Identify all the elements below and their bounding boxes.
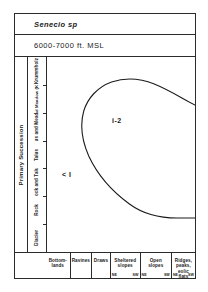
x-axis-cell-draws: Draws	[92, 253, 111, 278]
y-axis-tick-label: Rock and Talus	[34, 168, 39, 196]
x-axis-cell-ridges-peaks: Ridges, peaks, eolic flats NE SW	[172, 253, 195, 278]
contour-path-i2	[82, 79, 195, 218]
x-axis-cell-open-slopes: Open slopes NE SW	[141, 253, 172, 278]
y-axis-tick-talus: Talus	[27, 141, 46, 169]
x-axis-cell-label: Open slopes	[141, 258, 171, 269]
x-axis-cell-label: Ravines	[71, 258, 92, 263]
x-axis-cell-label: Draws	[92, 258, 110, 263]
y-axis-tick-glacier: Glacier	[27, 224, 46, 252]
y-axis-tick-rock-talus: Rock and Talus	[27, 168, 46, 196]
y-axis-tick-label: Meadow and Meadow (Krummholz)	[34, 85, 39, 113]
chart-frame: Senecio sp 6000-7000 ft. MSL Primary Suc…	[14, 13, 196, 279]
x-axis-cell-sublabel-right: SW	[188, 273, 194, 277]
x-axis-cell-bottomlands: Bottom-lands	[46, 253, 71, 278]
elevation-strip: 6000-7000 ft. MSL	[15, 35, 195, 57]
x-axis-cell-label: Sheltered slopes	[111, 258, 140, 269]
plot-canvas: i-2 < I	[46, 57, 195, 252]
contour-label-outer: < I	[62, 171, 71, 178]
y-axis-tick-meadow-krummholz: Meadow and Meadow (Krummholz)	[27, 85, 46, 113]
x-axis: Bottom-lands Ravines Draws Sheltered slo…	[46, 252, 195, 278]
y-axis-stage-column: Krummholz Meadow and Meadow (Krummholz) …	[27, 57, 47, 252]
x-axis-cell-sublabel-left: NE	[142, 273, 147, 277]
figure-root: Senecio sp 6000-7000 ft. MSL Primary Suc…	[0, 0, 208, 292]
contour-label-i2: i-2	[112, 117, 122, 124]
x-axis-cell-sublabel-left: NE	[112, 273, 117, 277]
y-axis-tick-rock: Rock	[27, 196, 46, 224]
elevation-band-label: 6000-7000 ft. MSL	[34, 41, 104, 50]
x-axis-cell-label: Bottom-lands	[46, 258, 70, 269]
y-axis-tick-label: Talus	[34, 148, 39, 160]
contour-svg	[46, 57, 195, 252]
x-axis-cell-sublabel-right: SW	[164, 273, 170, 277]
y-axis-tick-label: Talus and Meadow	[34, 113, 39, 141]
y-axis-tick-talus-meadow: Talus and Meadow	[27, 113, 46, 141]
y-axis-group-label: Primary Succession	[18, 124, 24, 185]
y-axis-tick-krummholz: Krummholz	[27, 57, 46, 85]
y-axis-tick-label: Glacier	[34, 230, 39, 246]
x-axis-cell-sublabel-right: SW	[133, 273, 139, 277]
plot-body: Primary Succession Krummholz Meadow and …	[15, 57, 195, 278]
x-axis-cell-ravines: Ravines	[71, 253, 93, 278]
x-axis-corner	[15, 252, 46, 278]
species-title: Senecio sp	[34, 20, 78, 29]
species-title-strip: Senecio sp	[15, 14, 195, 35]
x-axis-cell-sublabel-left: NE	[173, 273, 178, 277]
y-axis-tick-label: Krummholz	[34, 58, 39, 84]
y-axis-tick-label: Rock	[34, 204, 39, 216]
x-axis-cell-sheltered-slopes: Sheltered slopes NE SW	[111, 253, 141, 278]
